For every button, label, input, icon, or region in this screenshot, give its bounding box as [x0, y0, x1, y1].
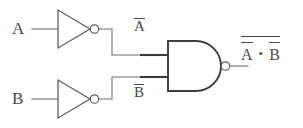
- output-outer-overbar: [241, 36, 280, 37]
- wire-not-b-to-nand: [99, 77, 158, 99]
- not-gate-b-bubble-icon: [90, 95, 98, 103]
- not-a-base-letter: A: [134, 19, 145, 34]
- not-b-overbar: [134, 84, 144, 85]
- output-left-term-overbar: [241, 42, 253, 43]
- nand-gate[interactable]: [168, 41, 221, 91]
- output-right-term: B: [269, 42, 280, 64]
- output-left-term: A: [241, 42, 253, 64]
- wire-not-a-to-nand: [99, 29, 158, 55]
- not-a-label: A: [134, 18, 145, 34]
- output-operator-icon: •: [257, 46, 266, 62]
- output-right-term-letter: B: [269, 46, 280, 63]
- output-expression: A • B: [241, 36, 280, 64]
- not-gate-a-bubble-icon: [90, 25, 98, 33]
- input-a-label: A: [12, 20, 24, 37]
- not-a-overbar-group: A: [134, 18, 145, 34]
- logic-circuit-diagram: A B A B A • B: [0, 0, 303, 128]
- not-b-overbar-group: B: [134, 84, 144, 100]
- nand-gate-bubble-icon: [221, 62, 229, 70]
- not-a-overbar: [134, 18, 145, 19]
- input-b-label: B: [12, 90, 23, 107]
- not-b-base-letter: B: [134, 85, 144, 100]
- not-gate-b[interactable]: [58, 80, 90, 118]
- output-outer-bar-group: A • B: [241, 36, 280, 64]
- circuit-schematic: [0, 0, 303, 128]
- output-left-term-letter: A: [241, 46, 253, 63]
- output-right-term-overbar: [269, 42, 280, 43]
- not-b-label: B: [134, 84, 144, 100]
- not-gate-a[interactable]: [58, 10, 90, 48]
